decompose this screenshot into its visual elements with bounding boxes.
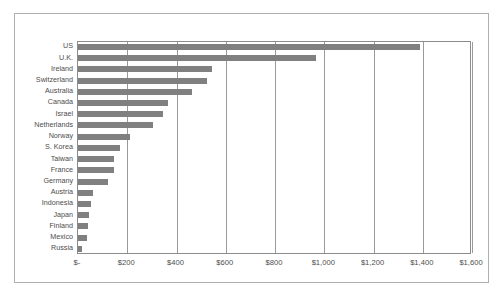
bar-row[interactable] bbox=[78, 42, 472, 52]
bar-row[interactable] bbox=[78, 165, 472, 175]
bar[interactable] bbox=[78, 246, 82, 252]
bar[interactable] bbox=[78, 78, 207, 84]
category-label: Indonesia bbox=[15, 199, 73, 207]
category-label: Netherlands bbox=[15, 121, 73, 129]
bar[interactable] bbox=[78, 66, 212, 72]
value-axis-labels: $-$200$400$600$800$1,000$1,200$1,400$1,6… bbox=[77, 258, 471, 274]
category-label: Norway bbox=[15, 132, 73, 140]
bar-row[interactable] bbox=[78, 188, 472, 198]
bar[interactable] bbox=[78, 145, 120, 151]
bar[interactable] bbox=[78, 134, 130, 140]
category-label: Japan bbox=[15, 211, 73, 219]
category-label: Russia bbox=[15, 244, 73, 252]
bar[interactable] bbox=[78, 44, 420, 50]
bar-row[interactable] bbox=[78, 143, 472, 153]
bar[interactable] bbox=[78, 167, 114, 173]
category-label: Taiwan bbox=[15, 155, 73, 163]
bar[interactable] bbox=[78, 201, 91, 207]
bar-row[interactable] bbox=[78, 177, 472, 187]
bar-row[interactable] bbox=[78, 53, 472, 63]
bar[interactable] bbox=[78, 122, 153, 128]
bar-row[interactable] bbox=[78, 109, 472, 119]
bar[interactable] bbox=[78, 111, 163, 117]
category-label: Finland bbox=[15, 222, 73, 230]
gridline bbox=[472, 42, 473, 253]
bar-row[interactable] bbox=[78, 244, 472, 254]
category-label: Australia bbox=[15, 87, 73, 95]
bar[interactable] bbox=[78, 235, 87, 241]
value-tick-label: $200 bbox=[118, 258, 135, 268]
bar-row[interactable] bbox=[78, 98, 472, 108]
bar-row[interactable] bbox=[78, 199, 472, 209]
bar[interactable] bbox=[78, 156, 114, 162]
bar-row[interactable] bbox=[78, 210, 472, 220]
value-tick-label: $- bbox=[74, 258, 81, 268]
value-tick-label: $1,200 bbox=[361, 258, 384, 268]
bar[interactable] bbox=[78, 223, 88, 229]
category-label: France bbox=[15, 166, 73, 174]
category-label: US bbox=[15, 42, 73, 50]
bar-row[interactable] bbox=[78, 120, 472, 130]
bar-row[interactable] bbox=[78, 132, 472, 142]
value-tick-label: $600 bbox=[216, 258, 233, 268]
bar-row[interactable] bbox=[78, 76, 472, 86]
bar[interactable] bbox=[78, 212, 89, 218]
category-label: Germany bbox=[15, 177, 73, 185]
bar[interactable] bbox=[78, 190, 93, 196]
category-label: S. Korea bbox=[15, 143, 73, 151]
bar[interactable] bbox=[78, 179, 108, 185]
category-label: Switzerland bbox=[15, 76, 73, 84]
bar-row[interactable] bbox=[78, 221, 472, 231]
value-tick-label: $1,000 bbox=[312, 258, 335, 268]
bar[interactable] bbox=[78, 100, 168, 106]
value-tick-label: $1,400 bbox=[410, 258, 433, 268]
category-label: U.K. bbox=[15, 54, 73, 62]
bar-row[interactable] bbox=[78, 154, 472, 164]
category-label: Canada bbox=[15, 98, 73, 106]
plot-area bbox=[77, 41, 471, 254]
value-tick-label: $800 bbox=[266, 258, 283, 268]
category-axis-labels: USU.K.IrelandSwitzerlandAustraliaCanadaI… bbox=[15, 41, 73, 254]
bar-row[interactable] bbox=[78, 87, 472, 97]
chart-frame: USU.K.IrelandSwitzerlandAustraliaCanadaI… bbox=[14, 13, 489, 283]
bar-row[interactable] bbox=[78, 233, 472, 243]
bar[interactable] bbox=[78, 55, 316, 61]
bar-series bbox=[78, 42, 470, 253]
category-label: Israel bbox=[15, 110, 73, 118]
category-label: Ireland bbox=[15, 65, 73, 73]
bar[interactable] bbox=[78, 89, 192, 95]
category-label: Mexico bbox=[15, 233, 73, 241]
bar-row[interactable] bbox=[78, 64, 472, 74]
value-tick-label: $1,600 bbox=[459, 258, 482, 268]
category-label: Austria bbox=[15, 188, 73, 196]
value-tick-label: $400 bbox=[167, 258, 184, 268]
